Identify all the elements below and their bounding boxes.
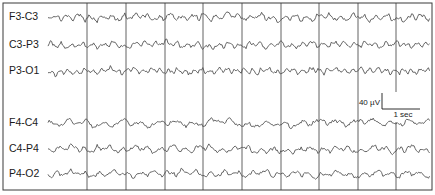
voltage-scale-label: 40 µV (359, 98, 381, 107)
channel-label: P4-O2 (9, 167, 40, 179)
channel-labels: F3-C3C3-P3P3-O1F4-C4C4-P4P4-O2 (9, 10, 40, 179)
time-grid (87, 3, 396, 190)
scale-bar: 40 µV 1 sec (359, 93, 420, 119)
eeg-figure: F3-C3C3-P3P3-O1F4-C4C4-P4P4-O2 40 µV 1 s… (0, 0, 435, 195)
channel-label: C3-P3 (9, 38, 39, 50)
eeg-trace-f3-c3 (48, 12, 430, 23)
time-scale-label: 1 sec (393, 110, 412, 119)
scale-bar-lines (382, 93, 420, 109)
eeg-trace-p3-o1 (48, 66, 430, 77)
channel-label: C4-P4 (9, 142, 39, 154)
eeg-trace-p4-o2 (48, 168, 430, 179)
channel-label: P3-O1 (9, 64, 40, 76)
channel-label: F3-C3 (9, 10, 38, 22)
eeg-trace-f4-c4 (48, 118, 430, 129)
figure-frame (3, 3, 432, 190)
channel-label: F4-C4 (9, 116, 38, 128)
eeg-traces (48, 12, 430, 179)
eeg-trace-c3-p3 (48, 39, 430, 49)
eeg-trace-c4-p4 (48, 144, 430, 155)
